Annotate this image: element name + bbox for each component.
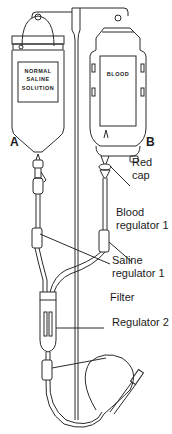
- filter-label: Filter: [110, 291, 134, 304]
- saline-regulator-line-1: Saline: [112, 254, 165, 267]
- blood-bag-label: BLOOD: [100, 70, 136, 78]
- tubing-merge: [32, 228, 105, 292]
- marker-a: A: [10, 136, 19, 150]
- marker-b: B: [146, 136, 155, 150]
- saline-label-line-2: SALINE: [18, 75, 58, 83]
- blood-bag: [90, 15, 146, 162]
- filter: [40, 292, 56, 352]
- saline-bag-label: NORMAL SALINE SOLUTION: [18, 67, 58, 92]
- blood-regulator-line-1: Blood: [116, 206, 169, 219]
- red-cap-line-1: Red: [132, 156, 152, 169]
- saline-label-line-3: SOLUTION: [18, 84, 58, 92]
- blood-regulator-line-2: regulator 1: [116, 219, 169, 232]
- red-cap-label: Red cap: [132, 156, 152, 181]
- saline-regulator-label: Saline regulator 1: [112, 254, 165, 279]
- saline-drip-chamber: [33, 160, 46, 228]
- saline-regulator-line-2: regulator 1: [112, 267, 165, 280]
- regulator-2-label: Regulator 2: [112, 316, 169, 329]
- lower-tubing: [42, 352, 143, 427]
- blood-drip-chamber: [99, 156, 111, 252]
- saline-label-line-1: NORMAL: [18, 67, 58, 75]
- red-cap-line-2: cap: [132, 169, 152, 182]
- blood-regulator-label: Blood regulator 1: [116, 206, 169, 231]
